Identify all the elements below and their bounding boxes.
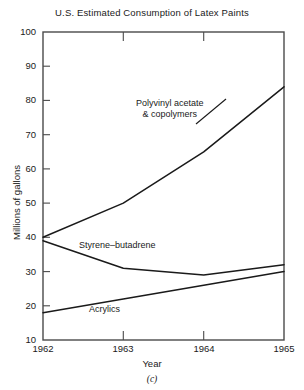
y-tick-label-20: 20 <box>6 300 36 311</box>
series-label-polyvinyl-acetate-line1: Polyvinyl acetate <box>136 98 204 109</box>
y-tick-marks <box>43 66 50 306</box>
y-axis-title: Millions of gallons <box>11 165 22 240</box>
figure-caption: (c) <box>0 374 304 384</box>
series-label-acrylics: Acrylics <box>89 304 120 315</box>
y-tick-label-70: 70 <box>6 129 36 140</box>
x-tick-label-1964: 1964 <box>184 343 224 354</box>
x-tick-marks <box>123 32 203 340</box>
x-tick-label-1965: 1965 <box>264 343 304 354</box>
figure-latex-paints-consumption: U.S. Estimated Consumption of Latex Pain… <box>0 0 304 390</box>
plot-frame <box>43 32 284 340</box>
x-tick-label-1963: 1963 <box>103 343 143 354</box>
series-label-polyvinyl-acetate-line2: & copolymers <box>136 109 204 120</box>
y-tick-label-90: 90 <box>6 60 36 71</box>
y-tick-label-30: 30 <box>6 266 36 277</box>
series-label-styrene-butadrene: Styrene–butadrene <box>79 240 156 251</box>
y-tick-label-80: 80 <box>6 94 36 105</box>
plot-canvas <box>0 0 304 390</box>
series-line-acrylics <box>43 272 284 313</box>
series-label-polyvinyl-acetate: Polyvinyl acetate & copolymers <box>136 98 204 120</box>
y-tick-label-100: 100 <box>6 26 36 37</box>
x-tick-label-1962: 1962 <box>23 343 63 354</box>
x-axis-title: Year <box>0 358 304 369</box>
